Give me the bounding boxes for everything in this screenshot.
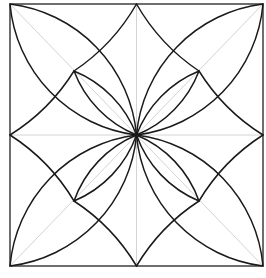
floral-pattern-diagram <box>0 0 266 278</box>
